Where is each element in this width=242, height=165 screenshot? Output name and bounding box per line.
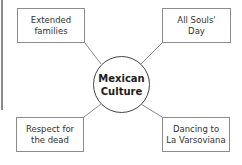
connector-bottom-right: [141, 104, 162, 117]
connector-top-left: [85, 43, 101, 64]
node-extended-families: Extended families: [17, 8, 85, 43]
node-dancing-la-varsoviana: Dancing to La Varsoviana: [162, 117, 230, 152]
node-label: All Souls' Day: [177, 15, 215, 37]
node-respect-for-the-dead: Respect for the dead: [16, 117, 84, 152]
connector-bottom-left: [84, 104, 101, 117]
node-label: Respect for the dead: [26, 124, 74, 146]
node-label: Extended families: [31, 15, 71, 37]
center-node-mexican-culture: Mexican Culture: [93, 56, 150, 113]
connector-top-right: [141, 43, 162, 64]
node-all-souls-day: All Souls' Day: [162, 8, 231, 43]
node-label: Dancing to La Varsoviana: [166, 124, 225, 146]
center-label: Mexican Culture: [98, 72, 144, 98]
